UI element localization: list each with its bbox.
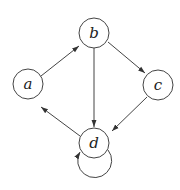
- node-d: d: [79, 128, 109, 158]
- edge-b-to-c: [108, 42, 145, 73]
- node-a-label: a: [24, 75, 33, 93]
- node-a: a: [13, 69, 43, 99]
- edge-d-to-a: [41, 107, 80, 136]
- graph-diagram: a b c d: [0, 0, 180, 190]
- node-d-label: d: [89, 134, 99, 152]
- node-c: c: [143, 70, 173, 100]
- node-b-label: b: [89, 24, 99, 42]
- edge-a-to-b: [41, 46, 79, 76]
- node-c-label: c: [154, 76, 163, 94]
- edge-c-to-d: [112, 97, 147, 131]
- node-b: b: [79, 18, 109, 48]
